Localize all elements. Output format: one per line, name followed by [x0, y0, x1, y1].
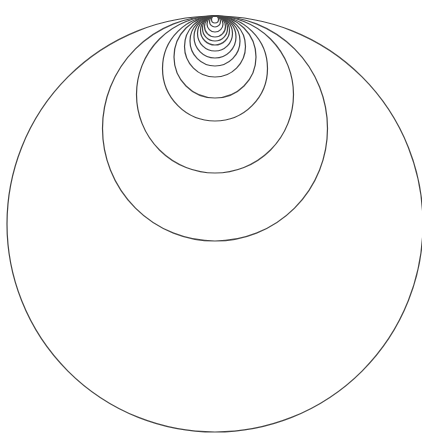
circle-14	[210, 16, 221, 27]
circle-9	[198, 16, 233, 51]
circle-2	[103, 16, 328, 241]
circle-15	[212, 16, 219, 23]
circle-13	[207, 16, 223, 32]
circle-3	[137, 16, 294, 173]
circle-1	[7, 16, 422, 432]
nested-circles-diagram	[0, 0, 422, 447]
circle-group	[7, 16, 422, 432]
circle-6	[185, 16, 246, 77]
